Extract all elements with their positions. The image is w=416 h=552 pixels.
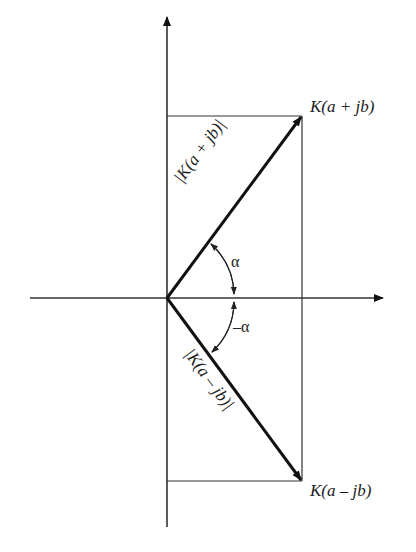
angle-arc-minus-alpha (212, 302, 234, 352)
lower-point-label: K(a – jb) (310, 481, 371, 501)
diagram-canvas (0, 0, 416, 552)
minus-alpha-label: –α (233, 318, 249, 336)
upper-point-label: K(a + jb) (310, 97, 374, 117)
alpha-label: α (231, 253, 239, 271)
